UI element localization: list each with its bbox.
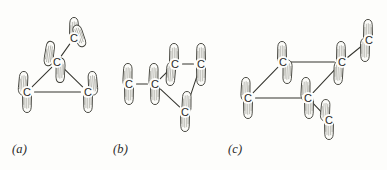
- panel-label-a: (a): [12, 142, 27, 157]
- atom-label-c-back-left: C: [279, 56, 287, 68]
- panel-label-c: (c): [228, 142, 242, 157]
- bond-c-back-right-to-c-front-right: [313, 67, 337, 92]
- atom-label-c-bottom-right: C: [84, 86, 92, 98]
- bond-c-apex-to-c-upper: [61, 44, 69, 56]
- bond-c-apex-to-c-bottom-right: [62, 67, 82, 87]
- bond-c-chain-to-c-ring-bot: [160, 89, 179, 107]
- atom-label-c-lower-right: C: [325, 114, 333, 126]
- panel-label-b: (b): [113, 142, 128, 157]
- atom-label-c-front-left: C: [244, 92, 252, 104]
- atom-label-c-back-right: C: [338, 56, 346, 68]
- atom-label-c-chain: C: [151, 78, 159, 90]
- atom-label-c-upper-right: C: [365, 34, 373, 46]
- atom-label-c-front-right: C: [304, 92, 312, 104]
- atom-label-c-bottom-left: C: [23, 86, 31, 98]
- bond-c-back-left-to-c-front-left: [253, 67, 278, 92]
- atom-label-c-ring-bot: C: [181, 106, 189, 118]
- atom-label-c-apex: C: [53, 56, 61, 68]
- atom-label-c-left-end: C: [125, 78, 133, 90]
- bond-c-apex-to-c-bottom-left: [32, 67, 51, 86]
- atom-label-c-ring-top-l: C: [171, 58, 179, 70]
- orbital-diagram-svg: CCCCCCCCCCCCCCC: [0, 0, 387, 170]
- atom-label-c-ring-top-r: C: [197, 58, 205, 70]
- figure-canvas: CCCCCCCCCCCCCCC (a) (b) (c): [0, 0, 387, 170]
- atom-label-c-upper: C: [70, 32, 78, 44]
